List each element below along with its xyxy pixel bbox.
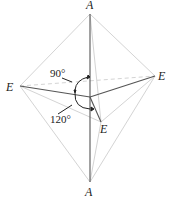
angle-120-label: 120°: [50, 113, 71, 125]
label-bottom-apex: A: [84, 185, 93, 199]
diagram-canvas: A A E E E 90° 120°: [0, 0, 175, 199]
label-front-equatorial: E: [99, 122, 108, 136]
polyhedron-edges: [20, 14, 155, 182]
label-left-equatorial: E: [5, 80, 14, 94]
label-right-equatorial: E: [157, 69, 166, 83]
trigonal-bipyramid-diagram: A A E E E 90° 120°: [0, 0, 175, 199]
arc-90: [75, 77, 88, 90]
bonds: [20, 14, 155, 182]
angle-90-label: 90°: [50, 67, 65, 79]
label-top-apex: A: [85, 0, 94, 12]
